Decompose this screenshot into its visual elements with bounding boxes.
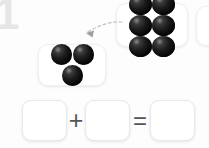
six-ball-group[interactable] [116, 3, 188, 47]
ball[interactable] [62, 65, 83, 86]
equation-row: + = [0, 98, 209, 146]
ball[interactable] [129, 0, 152, 15]
drag-arrow-icon [70, 18, 124, 48]
plus-operator: + [66, 100, 86, 141]
three-ball-group[interactable] [38, 44, 106, 86]
ball[interactable] [152, 36, 175, 57]
sum-box[interactable] [150, 100, 195, 141]
equals-operator: = [130, 100, 150, 141]
addend-1-box[interactable] [22, 100, 67, 141]
ball-grid-six [118, 5, 186, 45]
ball-grid-three [40, 46, 104, 84]
ball[interactable] [152, 0, 175, 15]
ball[interactable] [51, 44, 72, 65]
worksheet-canvas: 1 + = [0, 0, 209, 148]
page-number-watermark: 1 [0, 0, 17, 36]
ball[interactable] [129, 15, 152, 36]
ball[interactable] [152, 15, 175, 36]
off-screen-group[interactable] [196, 6, 209, 46]
addend-2-box[interactable] [85, 100, 130, 141]
ball[interactable] [129, 36, 152, 57]
